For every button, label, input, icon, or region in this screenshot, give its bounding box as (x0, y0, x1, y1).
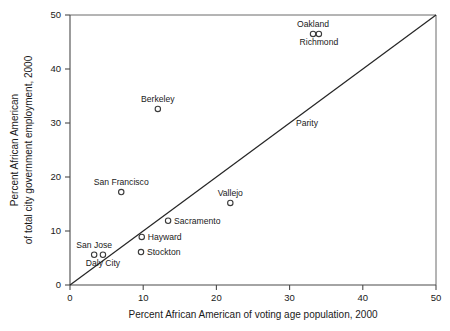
x-tick-label: 20 (211, 292, 222, 303)
data-point-label: San Francisco (94, 177, 149, 187)
data-point-marker (316, 31, 321, 36)
data-point-label: Daly City (86, 258, 121, 268)
parity-line-label: Parity (296, 118, 319, 128)
data-point-marker (228, 200, 233, 205)
data-point-label: Richmond (300, 37, 339, 47)
y-tick-label: 0 (56, 279, 61, 290)
data-point-label: Vallejo (218, 188, 243, 198)
y-tick-label: 20 (50, 171, 61, 182)
data-point-label: Sacramento (174, 216, 221, 226)
x-axis-title: Percent African American of voting age p… (128, 309, 377, 320)
scatter-chart-figure: 01020304050 01020304050 Parity OaklandRi… (0, 0, 450, 331)
y-axis-title-line2: of total city government employment, 200… (23, 55, 34, 244)
y-axis-ticks: 01020304050 (50, 9, 70, 290)
parity-reference-line (70, 15, 436, 285)
x-tick-label: 30 (284, 292, 295, 303)
data-point-marker (310, 31, 315, 36)
data-point-marker (138, 249, 143, 254)
data-point-marker (155, 106, 160, 111)
y-tick-label: 40 (50, 63, 61, 74)
x-axis-ticks: 01020304050 (67, 285, 441, 303)
y-tick-label: 10 (50, 225, 61, 236)
x-tick-label: 40 (358, 292, 369, 303)
data-point-label: Stockton (147, 247, 181, 257)
data-point-label: Berkeley (141, 94, 175, 104)
y-tick-label: 30 (50, 117, 61, 128)
data-point-marker (100, 252, 105, 257)
data-point-marker (165, 218, 170, 223)
data-point-marker (119, 189, 124, 194)
x-tick-label: 10 (138, 292, 149, 303)
data-point-marker (91, 252, 96, 257)
data-point-label: Oakland (297, 19, 329, 29)
data-point-label: Hayward (148, 232, 182, 242)
x-tick-label: 0 (67, 292, 72, 303)
data-point-label: San Jose (76, 240, 112, 250)
x-tick-label: 50 (431, 292, 442, 303)
data-point-group: OaklandRichmondBerkeleySan FranciscoVall… (76, 19, 338, 268)
data-point-marker (139, 234, 144, 239)
y-axis-title-line1: Percent African American (9, 94, 20, 206)
scatter-plot-svg: 01020304050 01020304050 Parity OaklandRi… (0, 0, 450, 331)
y-tick-label: 50 (50, 9, 61, 20)
